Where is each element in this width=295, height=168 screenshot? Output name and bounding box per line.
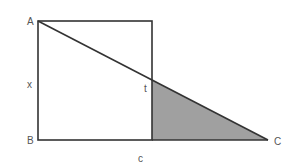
- label-x: x: [27, 79, 32, 90]
- label-c-upper: C: [274, 136, 281, 147]
- label-b: B: [27, 135, 34, 146]
- label-t: t: [144, 83, 147, 94]
- square: [38, 21, 152, 140]
- label-a: A: [27, 16, 34, 27]
- label-c-lower: c: [138, 153, 143, 164]
- geometry-diagram: A B x t C c: [0, 0, 295, 168]
